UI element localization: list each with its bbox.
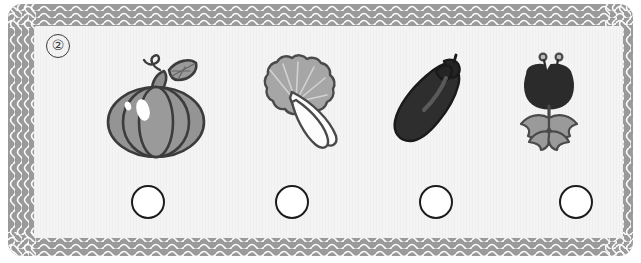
answer-circle-4[interactable] [559,185,593,219]
tulip-icon [483,40,623,168]
item-picture-row [34,40,623,168]
answer-circle-2[interactable] [275,185,309,219]
item-bok-choy[interactable] [226,40,366,168]
item-pumpkin[interactable] [86,40,226,168]
worksheet: ② [0,0,641,263]
answer-circle-1[interactable] [131,185,165,219]
pumpkin-icon [86,40,226,168]
item-tulip[interactable] [483,40,623,168]
worksheet-panel: ② [34,26,623,238]
bok-choy-icon [226,40,366,168]
answer-circle-row [34,181,623,231]
scalloped-border-frame: ② [8,4,633,256]
answer-circle-3[interactable] [419,185,453,219]
